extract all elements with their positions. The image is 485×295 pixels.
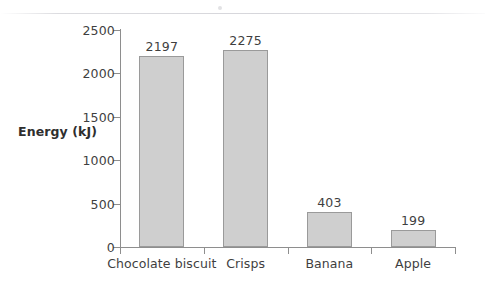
category-label: Apple: [395, 256, 431, 271]
y-tick-label: 1500: [82, 109, 115, 124]
y-tick-label: 1000: [82, 153, 115, 168]
x-tick-mark: [120, 247, 121, 254]
x-tick-mark: [371, 247, 372, 254]
x-tick-mark: [455, 247, 456, 254]
plot-area: 21972275403199: [120, 30, 455, 247]
bar-value-label: 403: [317, 195, 341, 210]
y-tick-label: 2000: [82, 66, 115, 81]
scan-speck-artifact: [218, 6, 222, 10]
category-label: Chocolate biscuit: [107, 256, 216, 271]
y-axis-title: Energy (kJ): [18, 124, 97, 139]
x-tick-mark: [204, 247, 205, 254]
bar: [139, 56, 184, 247]
scan-line-artifact: [0, 13, 485, 14]
y-tick-label: 500: [91, 196, 115, 211]
bar: [391, 230, 436, 247]
x-tick-mark: [288, 247, 289, 254]
energy-bar-chart: Energy (kJ) 21972275403199 0500100015002…: [0, 0, 485, 295]
category-label: Banana: [305, 256, 353, 271]
y-tick-label: 0: [107, 240, 115, 255]
bar-value-label: 199: [401, 213, 425, 228]
bar: [307, 212, 352, 247]
y-tick-label: 2500: [82, 23, 115, 38]
bar: [223, 50, 268, 247]
category-label: Crisps: [226, 256, 265, 271]
bar-value-label: 2197: [146, 39, 179, 54]
bar-value-label: 2275: [229, 33, 262, 48]
